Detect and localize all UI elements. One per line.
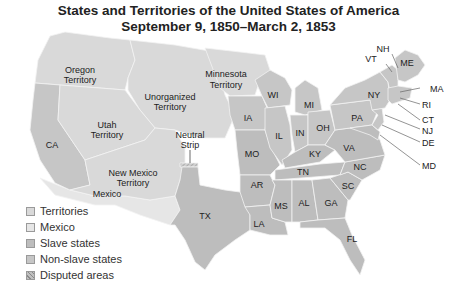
region-neutral-strip — [180, 163, 198, 167]
label-pa: PA — [351, 113, 362, 123]
label-unorganized-2: Territory — [154, 102, 187, 112]
label-sc: SC — [342, 181, 355, 191]
label-ga: GA — [324, 198, 337, 208]
label-ca: CA — [46, 140, 59, 150]
legend-item-non-slave-states: Non-slave states — [26, 251, 122, 267]
label-tx: TX — [199, 211, 211, 221]
label-ny: NY — [368, 90, 381, 100]
label-oh: OH — [316, 123, 330, 133]
label-new-mexico-1: New Mexico — [108, 168, 157, 178]
label-ri: RI — [422, 100, 431, 110]
legend-item-disputed: Disputed areas — [26, 267, 122, 283]
legend-swatch-mexico — [26, 223, 35, 232]
label-nc: NC — [354, 162, 367, 172]
label-tn: TN — [297, 167, 309, 177]
label-new-mexico-2: Territory — [117, 178, 150, 188]
label-neutral-1: Neutral — [175, 130, 204, 140]
legend-label-territories: Territories — [40, 205, 88, 217]
label-minnesota-1: Minnesota — [205, 69, 247, 79]
label-neutral-2: Strip — [181, 140, 200, 150]
legend-swatch-non-slave-states — [26, 255, 35, 264]
label-ar: AR — [251, 180, 264, 190]
label-mexico: Mexico — [93, 189, 122, 199]
legend-swatch-territories — [26, 207, 35, 216]
label-la: LA — [253, 219, 264, 229]
label-ky: KY — [309, 149, 321, 159]
label-al: AL — [298, 198, 309, 208]
label-nh: NH — [377, 44, 390, 54]
legend-label-slave-states: Slave states — [40, 237, 100, 249]
legend-item-territories: Territories — [26, 203, 122, 219]
legend-label-mexico: Mexico — [40, 221, 75, 233]
label-nj: NJ — [422, 126, 433, 136]
label-utah-2: Territory — [91, 130, 124, 140]
legend-item-slave-states: Slave states — [26, 235, 122, 251]
label-il: IL — [275, 131, 283, 141]
label-va: VA — [343, 143, 354, 153]
legend-label-disputed: Disputed areas — [40, 269, 114, 281]
legend-swatch-slave-states — [26, 239, 35, 248]
legend-label-non-slave-states: Non-slave states — [40, 253, 122, 265]
label-oregon-1: Oregon — [65, 65, 95, 75]
label-vt: VT — [365, 54, 377, 64]
label-in: IN — [296, 128, 305, 138]
region-massachusetts-ri-ct — [388, 86, 412, 104]
label-fl: FL — [347, 234, 358, 244]
legend-item-mexico: Mexico — [26, 219, 122, 235]
label-me: ME — [400, 58, 414, 68]
map-legend: Territories Mexico Slave states Non-slav… — [26, 203, 122, 283]
label-ms: MS — [274, 201, 288, 211]
label-de: DE — [422, 138, 435, 148]
label-mo: MO — [245, 149, 260, 159]
label-minnesota-2: Territory — [210, 80, 243, 90]
label-ma: MA — [430, 84, 444, 94]
label-unorganized-1: Unorganized — [144, 92, 195, 102]
label-wi: WI — [268, 90, 279, 100]
label-utah-1: Utah — [97, 120, 116, 130]
label-ct: CT — [422, 115, 434, 125]
label-oregon-2: Territory — [64, 75, 97, 85]
legend-swatch-disputed — [26, 271, 35, 280]
label-md: MD — [422, 161, 436, 171]
label-mi: MI — [304, 100, 314, 110]
label-ia: IA — [244, 113, 253, 123]
region-florida — [300, 218, 365, 275]
